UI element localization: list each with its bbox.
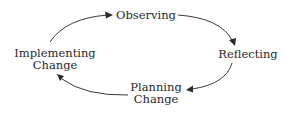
node-planning-change: Planning Change xyxy=(130,80,182,106)
arrowhead-icon xyxy=(105,12,113,19)
arrowhead-icon xyxy=(186,86,193,93)
arrowhead-icon xyxy=(229,38,236,46)
edge-implementing-to-observing-curve xyxy=(50,15,108,42)
node-observing: Observing xyxy=(116,8,177,22)
node-planning-label-line-2: Change xyxy=(134,92,179,106)
edge-planning-to-implementing xyxy=(57,74,128,95)
node-implementing-change: Implementing Change xyxy=(14,46,96,72)
edge-implementing-to-observing xyxy=(50,12,113,43)
node-reflecting: Reflecting xyxy=(218,47,278,61)
edge-observing-to-reflecting xyxy=(178,15,236,46)
edge-observing-to-reflecting-curve xyxy=(178,15,232,40)
edge-reflecting-to-planning-curve xyxy=(192,63,232,89)
node-implementing-label-line-2: Change xyxy=(33,58,78,72)
edge-reflecting-to-planning xyxy=(186,63,232,93)
node-reflecting-label: Reflecting xyxy=(218,47,278,61)
cycle-diagram: Observing Reflecting Planning Change Imp… xyxy=(0,0,286,113)
edge-planning-to-implementing-curve xyxy=(62,79,128,95)
node-observing-label: Observing xyxy=(116,8,177,22)
